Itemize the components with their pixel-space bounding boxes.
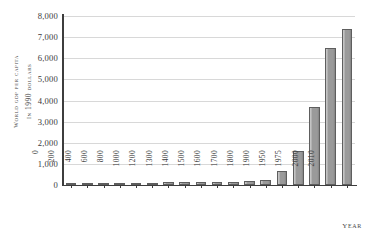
x-axis-tick-label: 1500: [177, 150, 186, 190]
y-axis-tick-label: 6,000: [14, 53, 58, 63]
x-axis-tick-label: 1900: [242, 150, 251, 190]
x-axis-tick-label: 1600: [193, 150, 202, 190]
x-axis-tick-label: 1975: [274, 150, 283, 190]
x-axis-tick-label: 1000: [112, 150, 121, 190]
bar[interactable]: [342, 29, 353, 185]
x-axis-tick-label: 2000: [291, 150, 300, 190]
bar-slot: [323, 16, 339, 185]
y-axis-tick-label: 3,000: [14, 117, 58, 127]
y-axis-tick-label: 5,000: [14, 74, 58, 84]
x-axis-tick-label: 1300: [145, 150, 154, 190]
x-axis-tick-label: 2010: [307, 150, 316, 190]
x-axis-tick-label: 1400: [161, 150, 170, 190]
y-axis-tick-label: 2,000: [14, 138, 58, 148]
bar-slot: [339, 16, 355, 185]
y-axis-tick-label: 7,000: [14, 32, 58, 42]
x-axis-tick-label: 600: [80, 150, 89, 190]
x-axis-tick-label: 200: [47, 150, 56, 190]
y-axis-tick-label: 4,000: [14, 96, 58, 106]
bar[interactable]: [325, 48, 336, 185]
x-axis-tick-mark: [331, 185, 332, 188]
bar-chart: World GDP per capita in 1990 dollars 01,…: [0, 0, 370, 239]
x-axis-tick-labels: 0200400600800100012001300140015001600170…: [0, 187, 370, 239]
x-axis-tick-label: 1200: [128, 150, 137, 190]
x-axis-tick-label: 800: [96, 150, 105, 190]
x-axis-tick-label: 1950: [258, 150, 267, 190]
x-axis-tick-mark: [347, 185, 348, 188]
x-axis-tick-label: 1800: [226, 150, 235, 190]
x-axis-title: Year: [342, 219, 362, 230]
x-axis-tick-label: 1700: [210, 150, 219, 190]
x-axis-tick-label: 0: [31, 150, 40, 190]
x-axis-tick-label: 400: [64, 150, 73, 190]
y-axis-tick-label: 8,000: [14, 11, 58, 21]
